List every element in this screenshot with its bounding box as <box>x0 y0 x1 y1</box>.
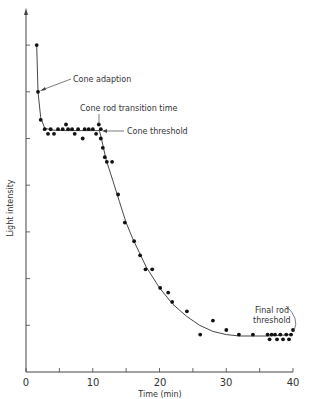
data-point <box>281 337 285 341</box>
label-cone-adaption: Cone adaption <box>73 75 131 84</box>
fitted-curve <box>37 45 293 336</box>
label-cone-threshold: Cone threshold <box>127 127 188 136</box>
data-point <box>105 160 109 164</box>
label-transition-time: Cone rod transition time <box>80 104 177 113</box>
data-point <box>268 337 272 341</box>
data-points <box>35 43 295 341</box>
x-ticks <box>26 368 293 372</box>
data-point <box>56 127 60 131</box>
annotation-cone-adaption: Cone adaption <box>40 75 131 91</box>
data-point <box>76 127 80 131</box>
data-point <box>266 333 270 337</box>
annotation-cone-threshold: Cone threshold <box>102 127 188 136</box>
dark-adaptation-chart: 0 10 20 30 40 Time (min) Light intensity… <box>0 0 309 399</box>
annotation-final-rod-threshold: Final rod threshold <box>253 306 296 331</box>
data-point <box>287 337 291 341</box>
data-point <box>251 333 255 337</box>
data-point <box>289 333 293 337</box>
data-point <box>94 132 98 136</box>
data-point <box>70 127 74 131</box>
data-point <box>36 90 40 94</box>
data-point <box>224 328 228 332</box>
data-point <box>66 127 70 131</box>
data-point <box>170 300 174 304</box>
data-point <box>211 319 215 323</box>
data-point <box>278 333 282 337</box>
data-point <box>61 127 65 131</box>
data-point <box>99 137 103 141</box>
data-point <box>166 291 170 295</box>
x-tick-label-0: 0 <box>23 377 29 388</box>
data-point <box>144 267 148 271</box>
data-point <box>198 333 202 337</box>
data-point <box>46 132 50 136</box>
data-point <box>99 127 103 131</box>
data-point <box>52 132 56 136</box>
y-axis-title: Light intensity <box>6 179 15 236</box>
data-point <box>39 118 43 122</box>
data-point <box>35 43 39 47</box>
data-point <box>81 137 85 141</box>
label-final-rod-2: threshold <box>253 316 291 325</box>
data-point <box>91 127 95 131</box>
x-tick-label-20: 20 <box>154 377 167 388</box>
data-point <box>49 127 53 131</box>
data-point <box>284 333 288 337</box>
data-point <box>132 239 136 243</box>
data-point <box>73 132 77 136</box>
data-point <box>185 309 189 313</box>
x-tick-label-10: 10 <box>87 377 100 388</box>
data-point <box>103 155 107 159</box>
y-ticks <box>26 45 30 325</box>
data-point <box>87 127 91 131</box>
data-point <box>270 333 274 337</box>
y-axis-arrow-icon <box>24 8 28 15</box>
data-point <box>116 193 120 197</box>
data-point <box>110 160 114 164</box>
data-point <box>101 146 105 150</box>
data-point <box>64 123 68 127</box>
annotation-transition: Cone rod transition time <box>80 104 177 124</box>
x-axis-title: Time (min) <box>137 390 181 399</box>
data-point <box>138 253 142 257</box>
data-point <box>43 127 47 131</box>
label-final-rod-1: Final rod <box>255 306 289 315</box>
data-point <box>275 337 279 341</box>
data-point <box>237 333 241 337</box>
x-tick-label-30: 30 <box>220 377 233 388</box>
data-point <box>123 221 127 225</box>
data-point <box>273 333 277 337</box>
data-point <box>150 267 154 271</box>
data-point <box>83 127 87 131</box>
x-tick-label-40: 40 <box>287 377 300 388</box>
data-point <box>158 286 162 290</box>
